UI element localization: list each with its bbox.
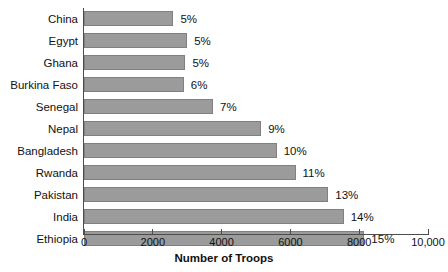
- bar-track: 11%: [84, 162, 428, 184]
- x-tick-label: 6000: [278, 236, 302, 248]
- bar-value-label: 7%: [220, 96, 237, 118]
- bar: [84, 143, 277, 158]
- category-label: Pakistan: [0, 184, 78, 206]
- category-label: Bangladesh: [0, 140, 78, 162]
- x-tick-mark: [84, 229, 85, 234]
- bar-row: Rwanda11%: [0, 162, 448, 184]
- bar: [84, 33, 187, 48]
- category-label: Senegal: [0, 96, 78, 118]
- bar: [84, 99, 213, 114]
- bar-row: China5%: [0, 8, 448, 30]
- bar: [84, 187, 328, 202]
- category-label: China: [0, 8, 78, 30]
- x-tick-mark: [428, 229, 429, 234]
- bar-value-label: 15%: [371, 228, 394, 250]
- bar-value-label: 6%: [191, 74, 208, 96]
- x-axis-title: Number of Troops: [0, 252, 448, 264]
- bar-track: 5%: [84, 52, 428, 74]
- bar-value-label: 5%: [180, 8, 197, 30]
- x-axis-line: [83, 234, 429, 235]
- x-tick-mark: [152, 229, 153, 234]
- bar-track: 14%: [84, 206, 428, 228]
- category-label: Ethiopia: [0, 228, 78, 250]
- bar-value-label: 5%: [194, 30, 211, 52]
- x-tick-label: 2000: [141, 236, 165, 248]
- bar-row: India14%: [0, 206, 448, 228]
- bar-row: Burkina Faso6%: [0, 74, 448, 96]
- bar: [84, 77, 184, 92]
- bar-row: Senegal7%: [0, 96, 448, 118]
- y-axis-line: [83, 8, 84, 234]
- category-label: Egypt: [0, 30, 78, 52]
- bar-value-label: 14%: [351, 206, 374, 228]
- bar-value-label: 10%: [284, 140, 307, 162]
- bar-track: 10%: [84, 140, 428, 162]
- bar: [84, 11, 173, 26]
- bar: [84, 165, 296, 180]
- bar-row: Egypt5%: [0, 30, 448, 52]
- x-tick-mark: [290, 229, 291, 234]
- category-label: Ghana: [0, 52, 78, 74]
- bar-value-label: 9%: [268, 118, 285, 140]
- bar: [84, 55, 185, 70]
- x-tick-mark: [359, 229, 360, 234]
- category-label: Burkina Faso: [0, 74, 78, 96]
- bar-track: 5%: [84, 30, 428, 52]
- bar-row: Ghana5%: [0, 52, 448, 74]
- x-tick-label: 8000: [347, 236, 371, 248]
- bar-row: Nepal9%: [0, 118, 448, 140]
- bar-row: Bangladesh10%: [0, 140, 448, 162]
- category-label: Rwanda: [0, 162, 78, 184]
- bar-track: 5%: [84, 8, 428, 30]
- category-label: Nepal: [0, 118, 78, 140]
- bar-track: 7%: [84, 96, 428, 118]
- x-tick-label: 4000: [209, 236, 233, 248]
- bar-track: 6%: [84, 74, 428, 96]
- bar-track: 13%: [84, 184, 428, 206]
- x-tick-label: 10,000: [411, 236, 445, 248]
- bar-value-label: 13%: [335, 184, 358, 206]
- bar-value-label: 11%: [303, 162, 325, 184]
- x-tick-mark: [221, 229, 222, 234]
- bar: [84, 209, 344, 224]
- bar-row: Pakistan13%: [0, 184, 448, 206]
- category-label: India: [0, 206, 78, 228]
- x-tick-label: 0: [81, 236, 87, 248]
- bar-track: 15%: [84, 228, 428, 250]
- bar-value-label: 5%: [192, 52, 209, 74]
- bar-track: 9%: [84, 118, 428, 140]
- bar: [84, 121, 261, 136]
- bar-chart: China5%Egypt5%Ghana5%Burkina Faso6%Seneg…: [0, 0, 448, 272]
